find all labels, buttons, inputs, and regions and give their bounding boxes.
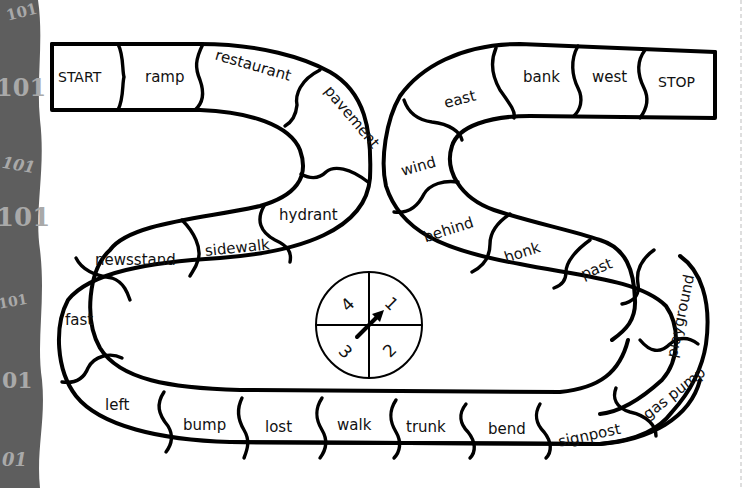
side-strip: 101 101 101 101 101 01 01: [0, 0, 50, 488]
space-divider: [537, 404, 551, 458]
space-ramp[interactable]: ramp: [145, 68, 185, 86]
space-divider: [159, 392, 172, 452]
space-divider: [238, 398, 247, 458]
space-divider: [391, 400, 400, 458]
space-walk[interactable]: walk: [337, 416, 372, 434]
space-honk[interactable]: honk: [502, 238, 543, 267]
space-divider: [472, 214, 510, 272]
stop-divider: [639, 50, 647, 118]
strip-glyph: 01: [2, 367, 33, 393]
space-signpost[interactable]: signpost: [556, 420, 622, 451]
space-behind[interactable]: behind: [421, 213, 475, 246]
space-divider: [461, 404, 474, 458]
space-divider: [182, 220, 199, 276]
space-lost[interactable]: lost: [265, 418, 292, 436]
bottom-outer-edge: [230, 256, 708, 444]
space-divider: [195, 44, 203, 110]
space-gas-pump[interactable]: gas pump: [639, 363, 709, 423]
space-bend[interactable]: bend: [488, 420, 526, 438]
start-space[interactable]: START: [58, 69, 102, 85]
space-divider: [301, 168, 368, 182]
strip-glyph: 01: [2, 449, 27, 470]
stop-space[interactable]: STOP: [658, 74, 695, 90]
space-west[interactable]: west: [592, 68, 627, 86]
space-divider: [573, 46, 581, 116]
space-newsstand[interactable]: newsstand: [95, 251, 176, 269]
start-divider: [118, 44, 124, 110]
left-path-outer-edge: [52, 44, 700, 444]
space-bank[interactable]: bank: [523, 68, 560, 86]
space-hydrant[interactable]: hydrant: [279, 206, 338, 224]
space-playground[interactable]: playground: [663, 273, 698, 360]
space-divider: [62, 355, 122, 382]
space-left[interactable]: left: [105, 396, 129, 414]
space-divider: [317, 398, 326, 458]
space-divider: [394, 182, 458, 213]
space-fast[interactable]: fast: [65, 311, 93, 329]
space-divider: [493, 48, 515, 118]
space-bump[interactable]: bump: [183, 416, 226, 434]
strip-glyph: 101: [0, 202, 50, 232]
spinner[interactable]: 1 2 3 4: [316, 272, 422, 378]
strip-glyph: 101: [0, 73, 46, 102]
space-sidewalk[interactable]: sidewalk: [204, 235, 271, 260]
space-east[interactable]: east: [442, 86, 478, 111]
space-divider: [285, 70, 320, 126]
space-trunk[interactable]: trunk: [406, 418, 446, 436]
space-wind[interactable]: wind: [399, 153, 438, 180]
